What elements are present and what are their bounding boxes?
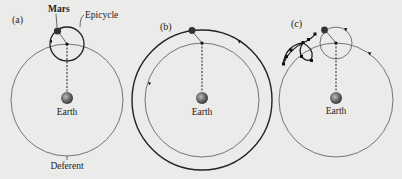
mars-leader-line [56, 14, 57, 27]
panel-a-label: (a) [12, 14, 23, 26]
mars-dot [54, 27, 61, 34]
earth-label: Earth [326, 106, 347, 116]
earth-label: Earth [57, 107, 78, 117]
direction-arrow-icon [148, 82, 151, 85]
earth-icon [196, 92, 208, 104]
epicycle-label: Epicycle [85, 10, 118, 20]
epicycle-leader-line [80, 15, 84, 27]
panel-c: (c) Earth [279, 18, 393, 157]
mars-dot [321, 27, 328, 34]
panel-a: (a) Mars Epicycle Earth Deferent [11, 4, 123, 171]
mars-label: Mars [48, 4, 70, 14]
ptolemaic-epicycle-diagram: (a) Mars Epicycle Earth Deferent (b) [0, 0, 402, 179]
panel-c-label: (c) [291, 18, 302, 30]
panel-b-label: (b) [160, 21, 172, 33]
epicycle-center-dot [65, 42, 68, 45]
mars-dot [189, 27, 196, 34]
earth-label: Earth [192, 107, 213, 117]
deferent-label: Deferent [50, 161, 84, 171]
earth-icon [61, 92, 73, 104]
epicycle-center-dot [334, 41, 337, 44]
panel-b: (b) Earth [132, 21, 272, 170]
earth-icon [330, 92, 342, 104]
epicycle-center-dot [200, 41, 203, 44]
